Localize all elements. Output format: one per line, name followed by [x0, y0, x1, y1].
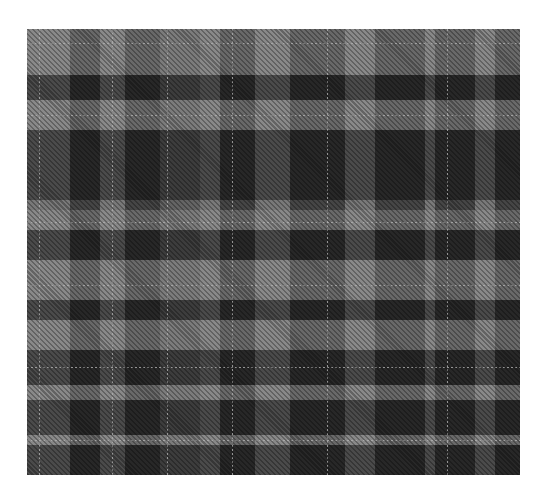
- twill-texture: [27, 29, 520, 475]
- plaid-fabric-swatch: [27, 29, 520, 475]
